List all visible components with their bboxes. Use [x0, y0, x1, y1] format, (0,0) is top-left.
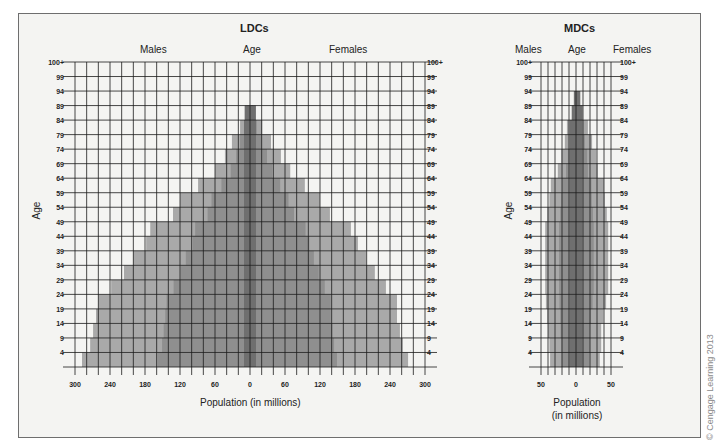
population-tick: 180: [139, 381, 151, 388]
age-tick-right: 89: [620, 103, 628, 110]
age-tick-left: 19: [56, 306, 64, 313]
copyright-notice: © Cengage Learning 2013: [705, 334, 715, 440]
female-bar-core: [576, 338, 582, 353]
age-tick-left: 74: [56, 146, 64, 153]
female-bar-core: [250, 207, 256, 222]
population-tick: 60: [281, 381, 289, 388]
age-tick-left: 99: [524, 74, 532, 81]
female-bar-core: [576, 323, 582, 338]
ldc-males-header: Males: [140, 44, 167, 55]
male-bar-core: [244, 222, 250, 237]
male-bar-shade: [193, 236, 250, 251]
age-tick-right: 19: [427, 306, 435, 313]
female-bar-shade: [250, 280, 325, 295]
female-bar-core: [576, 120, 582, 135]
mdc-age-header: Age: [568, 44, 586, 55]
mdc-y-axis-label: Age: [503, 202, 514, 220]
female-bar-core: [576, 149, 582, 164]
age-tick-left: 29: [524, 277, 532, 284]
female-bar-core: [250, 265, 256, 280]
age-tick-right: 9: [620, 335, 624, 342]
male-bar-core: [244, 280, 250, 295]
age-tick-right: 94: [427, 88, 435, 95]
age-tick-right: 4: [620, 349, 624, 356]
male-bar-core: [570, 207, 576, 222]
age-tick-right: 74: [620, 146, 628, 153]
age-tick-right: 54: [620, 204, 628, 211]
male-bar-core: [570, 280, 576, 295]
female-bar-shade: [250, 222, 306, 237]
age-tick-right: 34: [620, 262, 628, 269]
female-bar-core: [576, 309, 582, 324]
female-bar-shade: [250, 338, 334, 353]
age-tick-right: 79: [427, 132, 435, 139]
age-tick-left: 14: [56, 320, 64, 327]
age-tick-left: 29: [56, 277, 64, 284]
female-bar-core: [250, 164, 256, 179]
female-bar-shade: [250, 207, 294, 222]
female-bar-core: [250, 178, 256, 193]
female-bar-core: [250, 236, 256, 251]
male-bar-core: [244, 120, 250, 135]
age-tick-left: 49: [56, 219, 64, 226]
female-bar-core: [576, 178, 582, 193]
ldc-females-header: Females: [329, 44, 367, 55]
male-bar-core: [570, 120, 576, 135]
age-tick-left: 24: [56, 291, 64, 298]
male-bar-core: [244, 294, 250, 309]
male-bar-core: [245, 106, 250, 121]
age-tick-left: 54: [524, 204, 532, 211]
male-bar-shade: [165, 309, 250, 324]
female-bar-core: [576, 236, 582, 251]
ldc-x-axis-label: Population (in millions): [200, 396, 300, 409]
male-bar-shade: [158, 352, 250, 367]
male-bar-core: [570, 338, 576, 353]
population-pyramid-chart: 4499141419192424292934343939444449495454…: [0, 0, 718, 448]
female-bar-core: [250, 294, 256, 309]
female-bar-core: [250, 338, 256, 353]
male-bar-core: [244, 352, 250, 367]
population-tick: 50: [607, 381, 615, 388]
population-tick: 300: [419, 381, 431, 388]
age-tick-right: 4: [427, 349, 431, 356]
female-bar-core: [576, 294, 582, 309]
male-bar-core: [244, 309, 250, 324]
female-bar-shade: [250, 294, 331, 309]
age-tick-right: 39: [427, 248, 435, 255]
female-bar-core: [250, 193, 256, 208]
male-bar-core: [244, 207, 250, 222]
male-bar-core: [244, 135, 250, 150]
male-bar-shade: [208, 207, 250, 222]
age-tick-left: 39: [524, 248, 532, 255]
age-tick-left: 14: [524, 320, 532, 327]
male-bar-core: [570, 135, 576, 150]
age-tick-left: 74: [524, 146, 532, 153]
population-tick: 60: [211, 381, 219, 388]
female-bar-core: [250, 323, 256, 338]
age-tick-left: 94: [56, 88, 64, 95]
age-tick-right: 100+: [620, 59, 636, 66]
female-bar-core: [576, 135, 582, 150]
male-bar-core: [570, 251, 576, 266]
female-bar-core: [250, 251, 256, 266]
female-bar-core: [576, 207, 582, 222]
female-bar-core: [576, 164, 582, 179]
male-bar-core: [244, 265, 250, 280]
male-bar-core: [244, 178, 250, 193]
male-bar-core: [570, 164, 576, 179]
female-bar-core: [250, 135, 256, 150]
age-tick-right: 94: [620, 88, 628, 95]
age-tick-right: 29: [427, 277, 435, 284]
age-tick-right: 64: [620, 175, 628, 182]
age-tick-left: 34: [524, 262, 532, 269]
age-tick-right: 44: [427, 233, 435, 240]
female-bar-shade: [250, 251, 314, 266]
age-tick-right: 100+: [427, 59, 443, 66]
age-tick-right: 49: [427, 219, 435, 226]
population-tick: 0: [574, 381, 578, 388]
male-bar-core: [244, 193, 250, 208]
male-bar-core: [570, 265, 576, 280]
mdc-x-axis-label-line1: Population: [541, 396, 613, 409]
age-tick-right: 59: [620, 190, 628, 197]
age-tick-left: 100+: [48, 59, 64, 66]
